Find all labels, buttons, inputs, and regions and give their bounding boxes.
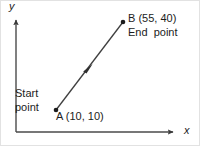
segment-a-to-b bbox=[56, 22, 123, 110]
point-b-marker bbox=[121, 20, 126, 25]
segment-group bbox=[54, 20, 126, 113]
point-a-label: A (10, 10) bbox=[56, 111, 104, 123]
line-segment-diagram: y x B (55, 40) End point A (10, 10) Star… bbox=[0, 0, 201, 147]
point-b-label: B (55, 40) bbox=[128, 13, 176, 25]
start-point-label-line1: Start bbox=[15, 88, 38, 100]
x-axis-label: x bbox=[184, 125, 190, 137]
end-point-label: End point bbox=[128, 27, 178, 39]
y-axis-label: y bbox=[9, 1, 15, 13]
start-point-label-line2: point bbox=[15, 102, 39, 114]
direction-arrow-icon bbox=[83, 64, 92, 73]
